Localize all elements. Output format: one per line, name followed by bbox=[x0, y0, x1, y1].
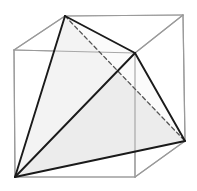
figure-container: Tetrahedron inscribed in a cube bbox=[0, 0, 197, 191]
back-top-overlay bbox=[65, 15, 183, 16]
back-right-vertical-overlay bbox=[183, 15, 185, 141]
front-left-overlay bbox=[14, 50, 15, 177]
top-right-diagonal-overlay bbox=[135, 15, 183, 53]
tetrahedron-in-cube-figure: Tetrahedron inscribed in a cube bbox=[0, 0, 197, 191]
